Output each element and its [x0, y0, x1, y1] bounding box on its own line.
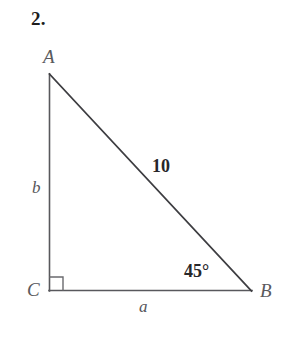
right-angle-marker-icon	[50, 277, 64, 291]
vertex-label-b: B	[260, 281, 272, 300]
angle-measure-label: 45°	[184, 262, 209, 280]
hypotenuse-line	[50, 74, 252, 291]
hypotenuse-length-label: 10	[152, 157, 170, 175]
vertex-label-a: A	[43, 47, 55, 66]
side-label-a: a	[139, 298, 148, 315]
geometry-figure: 2. A B C b a 10 45°	[0, 0, 292, 337]
vertex-label-c: C	[27, 280, 40, 299]
side-label-b: b	[32, 179, 41, 196]
